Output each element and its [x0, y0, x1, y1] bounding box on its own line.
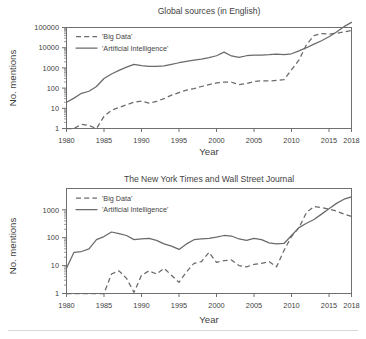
- x-tick-label-top-2018: 2018: [343, 136, 359, 145]
- series-line-big-data-bottom: [67, 207, 352, 294]
- x-tick-label-bottom-2000: 2000: [208, 301, 224, 310]
- x-tick-label-bottom-2005: 2005: [246, 301, 262, 310]
- x-tick-label-bottom-1990: 1990: [133, 301, 149, 310]
- x-tick-label-bottom-2018: 2018: [343, 301, 359, 310]
- chart-title-global-sources: Global sources (in English): [158, 6, 261, 16]
- x-tick-label-top-2010: 2010: [283, 136, 299, 145]
- legend-label-big-data-bottom: 'Big Data': [102, 194, 133, 203]
- x-ticks-top: 198019851990199520002005201020152018: [58, 129, 359, 145]
- y-tick-label-top-3: 1000: [43, 64, 59, 73]
- y-axis-label-bottom: No. mentions: [7, 218, 18, 275]
- y-ticks-bottom: 1 10 100 1000: [43, 206, 67, 299]
- x-tick-label-top-1995: 1995: [171, 136, 187, 145]
- chart-panel-global-sources: Global sources (in English) Year No. men…: [0, 0, 366, 168]
- x-tick-label-bottom-1995: 1995: [171, 301, 187, 310]
- x-tick-label-top-1980: 1980: [58, 136, 74, 145]
- y-tick-label-top-0: 1: [55, 124, 59, 133]
- x-tick-label-bottom-2015: 2015: [321, 301, 337, 310]
- legend-top: 'Big Data' 'Artificial Intelligence': [76, 32, 169, 53]
- footer-divider: [8, 330, 358, 331]
- x-tick-label-bottom-2010: 2010: [283, 301, 299, 310]
- x-tick-label-bottom-1985: 1985: [96, 301, 112, 310]
- y-tick-label-top-4: 10000: [38, 43, 59, 52]
- y-tick-label-top-2: 100: [47, 84, 59, 93]
- x-axis-label-bottom: Year: [199, 314, 219, 325]
- y-tick-label-bottom-1: 10: [51, 261, 59, 270]
- x-ticks-bottom: 198019851990199520002005201020152018: [58, 294, 359, 310]
- x-tick-label-top-2000: 2000: [208, 136, 224, 145]
- y-tick-label-top-5: 100000: [34, 23, 59, 32]
- chart-svg-nyt-wsj: The New York Times and Wall Street Journ…: [0, 168, 366, 339]
- y-tick-label-top-1: 10: [51, 104, 59, 113]
- x-tick-label-top-2015: 2015: [321, 136, 337, 145]
- x-tick-label-top-2005: 2005: [246, 136, 262, 145]
- legend-label-big-data-top: 'Big Data': [102, 32, 133, 41]
- x-tick-label-top-1985: 1985: [96, 136, 112, 145]
- figure-sheet: Global sources (in English) Year No. men…: [0, 0, 366, 339]
- legend-bottom: 'Big Data' 'Artificial Intelligence': [76, 194, 169, 215]
- legend-label-ai-top: 'Artificial Intelligence': [102, 44, 169, 53]
- y-tick-label-bottom-2: 100: [47, 233, 59, 242]
- legend-label-ai-bottom: 'Artificial Intelligence': [102, 205, 169, 214]
- chart-svg-global-sources: Global sources (in English) Year No. men…: [0, 0, 366, 168]
- y-tick-label-bottom-3: 1000: [43, 206, 59, 215]
- x-tick-label-bottom-1980: 1980: [58, 301, 74, 310]
- y-axis-label-top: No. mentions: [7, 50, 18, 107]
- y-ticks-top: 1 10 100 1000 10000 100000: [34, 23, 66, 133]
- x-tick-label-top-1990: 1990: [133, 136, 149, 145]
- chart-panel-nyt-wsj: The New York Times and Wall Street Journ…: [0, 168, 366, 339]
- x-axis-label-top: Year: [199, 146, 219, 157]
- chart-title-nyt-wsj: The New York Times and Wall Street Journ…: [124, 174, 294, 184]
- y-tick-label-bottom-0: 1: [55, 289, 59, 298]
